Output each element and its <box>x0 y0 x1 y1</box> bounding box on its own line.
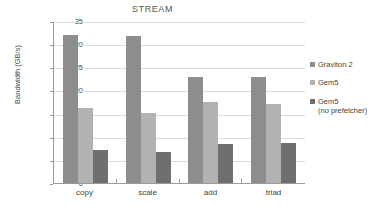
bar-group-add <box>180 22 243 183</box>
plot-area <box>53 22 305 184</box>
legend-label: Graviton 2 <box>318 60 353 69</box>
bar-group-scale <box>117 22 180 183</box>
bar <box>203 102 218 183</box>
x-tick-label: add <box>179 188 242 197</box>
bar <box>93 150 108 183</box>
x-tick-label: triad <box>242 188 305 197</box>
bar <box>78 108 93 183</box>
bar <box>141 113 156 183</box>
bar-group-copy <box>54 22 117 183</box>
legend-swatch-icon <box>310 80 315 85</box>
bar <box>188 77 203 183</box>
bar-group-triad <box>242 22 305 183</box>
legend: Graviton 2Gem5Gem5 (no prefetcher) <box>310 60 390 125</box>
legend-label: Gem5 <box>318 78 338 87</box>
bar <box>156 152 171 183</box>
stream-bar-chart: STREAM Bandwidth (GB/s) 05101520253035 c… <box>0 0 390 215</box>
y-axis-title: Bandwidth (GB/s) <box>13 20 22 130</box>
bar <box>266 104 281 183</box>
legend-item: Gem5 (no prefetcher) <box>310 97 390 116</box>
bar <box>218 144 233 183</box>
legend-label: Gem5 (no prefetcher) <box>318 97 367 116</box>
bar <box>281 143 296 183</box>
chart-title: STREAM <box>0 4 305 14</box>
legend-swatch-icon <box>310 62 315 67</box>
legend-item: Gem5 <box>310 78 390 87</box>
bar <box>63 35 78 183</box>
bar-groups <box>54 22 305 183</box>
legend-item: Graviton 2 <box>310 60 390 69</box>
legend-swatch-icon <box>310 99 315 104</box>
x-tick-label: copy <box>53 188 116 197</box>
bar <box>251 77 266 183</box>
bar <box>126 36 141 183</box>
x-tick-label: scale <box>116 188 179 197</box>
y-tick-mark <box>50 184 53 185</box>
